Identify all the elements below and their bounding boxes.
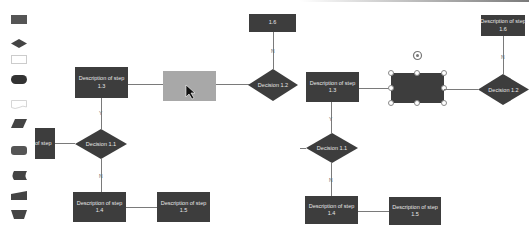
resize-handle-e[interactable] (441, 85, 447, 91)
label-y: Y (99, 110, 102, 116)
resize-handle-sw[interactable] (388, 100, 394, 106)
connector (126, 207, 157, 208)
resize-handle-nw[interactable] (388, 70, 394, 76)
connector (55, 143, 75, 144)
step-1-6-right[interactable]: Description of step 1.6 (481, 15, 525, 36)
step-1-6-left[interactable]: 1.6 (249, 14, 296, 32)
step-1-4-label: Description of step 1.4 (309, 203, 355, 217)
document-icon[interactable] (11, 95, 27, 104)
decision-1-1-left[interactable]: Decision 1.1 (75, 129, 127, 159)
decision-1-2-label: Decision 1.2 (478, 74, 529, 105)
connector (359, 88, 390, 89)
step-1-3-left[interactable]: Description of step 1.3 (75, 67, 128, 98)
step-1-5-label: Description of step 1.5 (161, 200, 207, 214)
resize-handle-se[interactable] (441, 100, 447, 106)
label-n: N (271, 48, 275, 54)
step-1-3-label: Description of step 1.3 (79, 75, 125, 89)
step-partial-label: of step (35, 140, 52, 147)
step-1-5-label: Description of step 1.5 (392, 204, 438, 218)
rectangle-icon[interactable] (11, 15, 27, 24)
diamond-icon[interactable] (11, 34, 27, 43)
outline-rectangle-icon[interactable] (11, 55, 27, 64)
mouse-cursor-icon (185, 84, 197, 100)
resize-handle-s[interactable] (414, 100, 420, 106)
decision-1-1-right[interactable]: Decision 1.1 (306, 133, 358, 163)
trapezoid-icon[interactable] (11, 205, 27, 214)
step-1-5-right[interactable]: Description of step 1.5 (389, 197, 441, 225)
step-1-4-right[interactable]: Description of step 1.4 (305, 196, 358, 224)
rounded-rectangle-icon[interactable] (11, 146, 27, 155)
step-1-5-left[interactable]: Description of step 1.5 (157, 192, 210, 222)
label-y: Y (329, 116, 332, 122)
decision-1-2-label: Decision 1.2 (248, 69, 298, 101)
connector (358, 211, 389, 212)
rounded-pill-icon[interactable] (11, 75, 27, 84)
window-edge (300, 0, 529, 2)
decision-1-1-label: Decision 1.1 (75, 129, 127, 159)
step-1-6-label: Description of step 1.6 (480, 18, 526, 32)
decision-1-2-right[interactable]: Decision 1.2 (478, 74, 529, 105)
step-1-6-label: 1.6 (269, 19, 277, 26)
step-1-4-left[interactable]: Description of step 1.4 (73, 192, 126, 222)
decision-1-2-left[interactable]: Decision 1.2 (248, 69, 298, 101)
resize-handle-n[interactable] (414, 70, 420, 76)
label-n: N (501, 54, 505, 60)
connector (444, 89, 478, 90)
label-n: N (329, 177, 333, 183)
step-1-4-label: Description of step 1.4 (77, 200, 123, 214)
parallelogram-icon[interactable] (11, 114, 27, 123)
step-1-3-right[interactable]: Description of step 1.3 (306, 72, 359, 102)
rotate-handle-icon[interactable] (412, 50, 423, 61)
selected-shape[interactable] (391, 73, 444, 103)
shape-palette (0, 0, 34, 234)
step-partial-node[interactable]: of step (35, 128, 55, 159)
resize-handle-w[interactable] (388, 85, 394, 91)
manual-input-icon[interactable] (11, 186, 27, 195)
step-1-3-label: Description of step 1.3 (310, 80, 356, 94)
decision-1-1-label: Decision 1.1 (306, 133, 358, 163)
resize-handle-ne[interactable] (441, 70, 447, 76)
label-n: N (99, 173, 103, 179)
stored-data-icon[interactable] (11, 166, 27, 175)
connector (300, 148, 306, 149)
